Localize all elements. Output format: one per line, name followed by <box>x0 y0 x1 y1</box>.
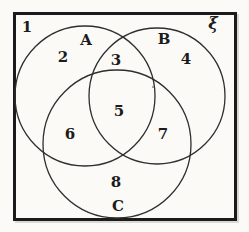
region-5-label: 5 <box>114 104 124 119</box>
region-1-label: 1 <box>22 20 32 35</box>
region-8-label: 8 <box>111 175 121 190</box>
region-6-label: 6 <box>65 127 75 142</box>
universal-set-symbol: ξ <box>208 16 217 32</box>
set-c-label: C <box>112 199 124 214</box>
scan-speck-dot <box>152 86 154 88</box>
venn-circles <box>0 0 249 232</box>
region-4-label: 4 <box>181 52 191 67</box>
set-b-circle <box>89 28 225 164</box>
set-a-label: A <box>80 33 92 48</box>
region-7-label: 7 <box>158 127 168 142</box>
venn-diagram-figure: 1 ξ A B 2 3 4 5 6 7 8 C <box>0 0 249 232</box>
set-b-label: B <box>158 32 171 47</box>
region-2-label: 2 <box>58 50 68 65</box>
region-3-label: 3 <box>111 53 121 68</box>
